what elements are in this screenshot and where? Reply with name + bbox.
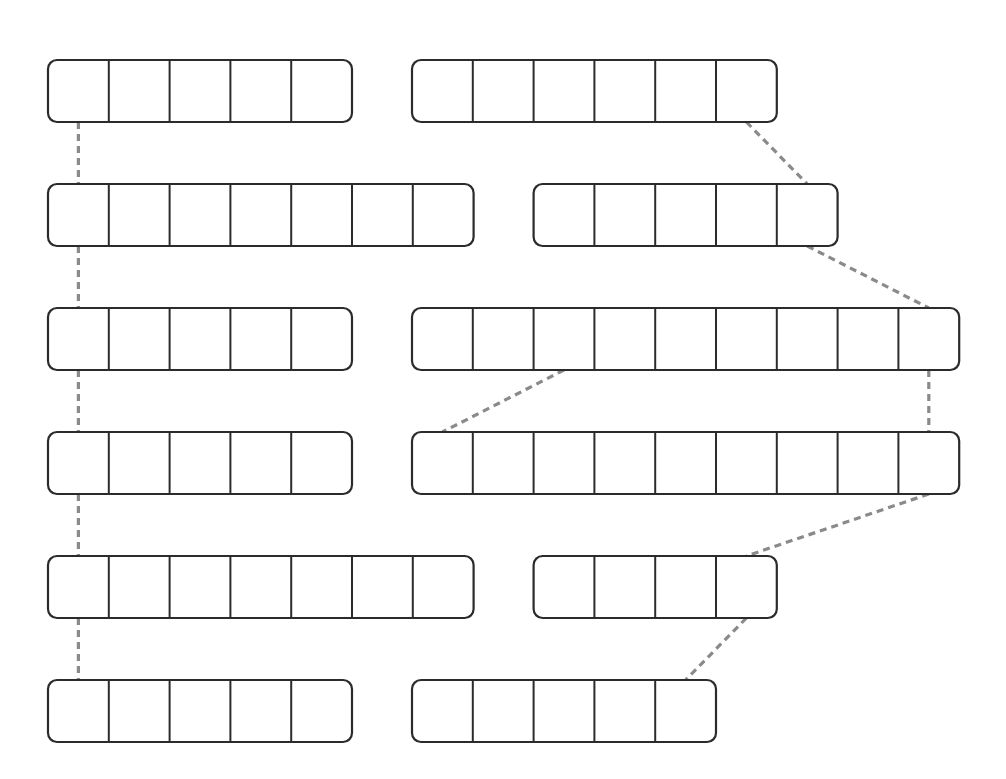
array-cell [717, 557, 776, 617]
array-cell [171, 61, 230, 121]
array-cell [656, 557, 715, 617]
array-cell [292, 557, 351, 617]
array-cell [778, 185, 837, 245]
array-cell [595, 433, 654, 493]
array-cell [656, 309, 715, 369]
right-link-connector-4 [746, 494, 928, 556]
left-array-row-2 [48, 308, 352, 370]
array-cell [535, 433, 594, 493]
array-cell [231, 681, 290, 741]
array-cell [353, 185, 412, 245]
array-cell [778, 433, 837, 493]
array-cell [110, 681, 169, 741]
array-cell [292, 433, 351, 493]
array-cell [595, 61, 654, 121]
left-array-row-1 [48, 184, 474, 246]
array-cell [535, 681, 594, 741]
array-cell [474, 61, 533, 121]
right-array-row-4 [534, 556, 777, 618]
array-cell [656, 433, 715, 493]
array-cell [717, 185, 776, 245]
array-cell [231, 61, 290, 121]
array-cell [292, 61, 351, 121]
array-cell [110, 309, 169, 369]
array-cell [839, 309, 898, 369]
array-cell [49, 61, 108, 121]
array-cell [231, 557, 290, 617]
array-cell [899, 309, 958, 369]
array-cell [292, 309, 351, 369]
array-cell [171, 185, 230, 245]
right-array-row-2 [412, 308, 959, 370]
array-cell [110, 433, 169, 493]
array-cell [171, 433, 230, 493]
right-link-connector-0 [746, 122, 807, 184]
array-cell [49, 185, 108, 245]
array-cell [717, 309, 776, 369]
array-cell [171, 557, 230, 617]
array-cell [474, 309, 533, 369]
array-cell [656, 185, 715, 245]
array-cell [413, 309, 472, 369]
array-cell [49, 433, 108, 493]
array-cell [413, 681, 472, 741]
array-cell [839, 433, 898, 493]
array-cell [110, 185, 169, 245]
diagram-canvas [0, 0, 1006, 779]
array-cell [535, 61, 594, 121]
right-link-connector-5 [686, 618, 747, 680]
array-cell [110, 557, 169, 617]
array-cell [292, 185, 351, 245]
array-cell [717, 61, 776, 121]
right-link-connector-1 [807, 246, 929, 308]
array-cell [413, 61, 472, 121]
array-cell [595, 309, 654, 369]
array-cell [535, 557, 594, 617]
array-cell [535, 309, 594, 369]
array-cell [49, 681, 108, 741]
left-array-row-0 [48, 60, 352, 122]
right-array-row-1 [534, 184, 838, 246]
left-array-row-4 [48, 556, 474, 618]
array-cell [414, 557, 473, 617]
right-array-row-5 [412, 680, 716, 742]
array-cell [413, 433, 472, 493]
right-link-connector-3 [442, 370, 564, 432]
array-cell [110, 61, 169, 121]
array-cell [595, 557, 654, 617]
array-cell [899, 433, 958, 493]
array-cell [231, 433, 290, 493]
array-cell [717, 433, 776, 493]
array-cell [414, 185, 473, 245]
array-cell [656, 681, 715, 741]
right-array-row-3 [412, 432, 959, 494]
array-cell [595, 681, 654, 741]
array-cell [49, 557, 108, 617]
array-cell [656, 61, 715, 121]
array-cell [231, 309, 290, 369]
array-cell [49, 309, 108, 369]
array-layer [48, 60, 959, 742]
array-cell [474, 433, 533, 493]
array-cell [474, 681, 533, 741]
array-cell [292, 681, 351, 741]
left-array-row-5 [48, 680, 352, 742]
array-cell [595, 185, 654, 245]
right-array-row-0 [412, 60, 777, 122]
array-cell [171, 681, 230, 741]
array-cell [171, 309, 230, 369]
array-cell [535, 185, 594, 245]
array-cell [353, 557, 412, 617]
array-cell [231, 185, 290, 245]
array-cell [778, 309, 837, 369]
left-array-row-3 [48, 432, 352, 494]
